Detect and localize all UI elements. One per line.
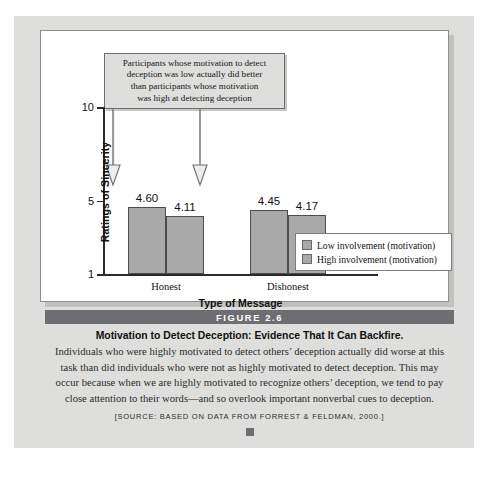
figure-caption-title: Motivation to Detect Deception: Evidence… — [40, 328, 459, 343]
legend-swatch-low-involvement — [302, 240, 312, 250]
x-axis-line — [103, 274, 378, 276]
bar-value-honest-high: 4.11 — [174, 201, 196, 213]
figure-caption-block: Motivation to Detect Deception: Evidence… — [40, 328, 459, 436]
bar-value-dishonest-low: 4.45 — [258, 195, 280, 207]
y-tick-label-5: 5 — [88, 195, 94, 207]
figure-caption-body: Individuals who were highly motivated to… — [40, 343, 459, 406]
legend-label-high-involvement: High involvement (motivation) — [317, 254, 437, 265]
figure-source-note: [SOURCE: BASED ON DATA FROM FORREST & FE… — [40, 412, 459, 421]
end-of-figure-marker — [246, 428, 254, 436]
legend-swatch-high-involvement — [302, 254, 312, 264]
chart-plate: Participants whose motivation to detect … — [40, 30, 449, 302]
y-axis-title: Ratings of Sincerity — [99, 141, 111, 242]
y-tick-1 — [97, 274, 103, 276]
bar-dishonest-low-involvement — [250, 210, 288, 275]
y-tick-10 — [97, 107, 103, 109]
y-tick-label-10: 10 — [82, 101, 94, 113]
bar-honest-low-involvement — [128, 207, 166, 275]
legend-label-low-involvement: Low involvement (motivation) — [317, 240, 435, 251]
bar-value-dishonest-high: 4.17 — [296, 200, 318, 212]
y-tick-label-1: 1 — [88, 268, 94, 280]
callout-annotation-text: Participants whose motivation to detect … — [123, 58, 266, 104]
chart-legend: Low involvement (motivation) High involv… — [295, 233, 452, 271]
legend-item-high-involvement: High involvement (motivation) — [302, 254, 445, 265]
bar-honest-high-involvement — [166, 216, 204, 274]
x-group-label-dishonest: Dishonest — [267, 281, 309, 292]
x-group-label-honest: Honest — [151, 281, 181, 292]
figure-panel: Participants whose motivation to detect … — [14, 16, 474, 448]
figure-number-banner: FIGURE 2.6 — [45, 310, 454, 324]
x-axis-title: Type of Message — [199, 297, 283, 309]
legend-item-low-involvement: Low involvement (motivation) — [302, 240, 445, 251]
callout-annotation-box: Participants whose motivation to detect … — [104, 53, 285, 109]
bar-value-honest-low: 4.60 — [136, 192, 158, 204]
